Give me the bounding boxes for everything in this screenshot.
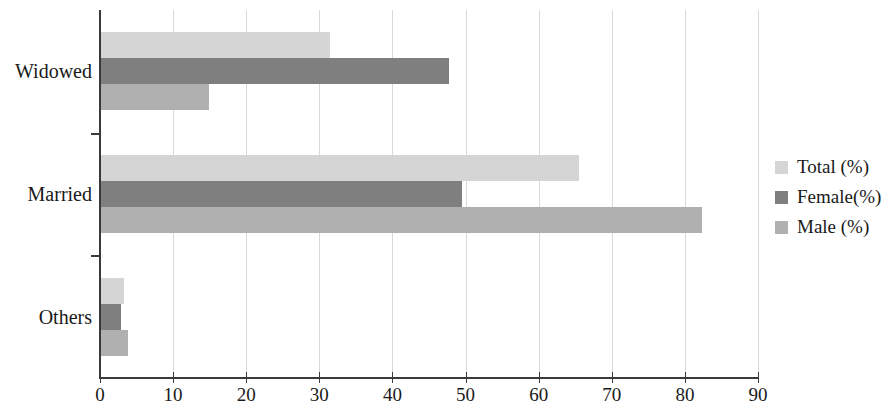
x-axis-tick-label: 0	[95, 384, 105, 406]
legend-swatch-icon	[775, 161, 788, 174]
x-axis-tick-label: 20	[237, 384, 256, 406]
bar	[100, 278, 124, 304]
x-axis-tick	[319, 372, 320, 383]
y-axis-line	[99, 10, 101, 378]
legend-label: Total (%)	[797, 156, 869, 178]
legend-item: Total (%)	[775, 152, 883, 182]
x-axis-tick-label: 80	[675, 384, 694, 406]
x-axis-tick	[392, 372, 393, 383]
category-label: Others	[0, 305, 92, 329]
legend-swatch-icon	[775, 191, 788, 204]
bars-layer	[100, 10, 758, 378]
x-axis-tick	[685, 372, 686, 383]
gridline	[758, 10, 759, 378]
bar	[100, 330, 128, 356]
x-axis-tick	[539, 372, 540, 383]
legend-swatch-icon	[775, 221, 788, 234]
x-axis-tick-label: 70	[602, 384, 621, 406]
bar	[100, 155, 579, 181]
y-axis-tick	[91, 133, 100, 135]
x-axis-tick-label: 90	[749, 384, 768, 406]
x-axis-tick	[246, 372, 247, 383]
legend-item: Female(%)	[775, 182, 883, 212]
legend-label: Female(%)	[797, 186, 881, 208]
legend-item: Male (%)	[775, 212, 883, 242]
x-axis-tick-label: 10	[164, 384, 183, 406]
category-label: Widowed	[0, 59, 92, 83]
bar	[100, 58, 449, 84]
category-label: Married	[0, 182, 92, 206]
bar	[100, 207, 702, 233]
x-axis-tick-label: 60	[529, 384, 548, 406]
y-axis-tick	[91, 255, 100, 257]
x-axis-tick-label: 40	[383, 384, 402, 406]
bar	[100, 304, 121, 330]
legend-label: Male (%)	[797, 216, 869, 238]
bar	[100, 32, 330, 58]
bar	[100, 181, 462, 207]
x-axis-line	[99, 377, 759, 379]
x-axis-tick	[612, 372, 613, 383]
x-axis-tick	[100, 372, 101, 383]
x-axis-tick-label: 50	[456, 384, 475, 406]
x-axis-tick	[466, 372, 467, 383]
x-axis-tick-label: 30	[310, 384, 329, 406]
bar	[100, 84, 209, 110]
x-axis-tick	[758, 372, 759, 383]
category-labels: WidowedMarriedOthers	[0, 0, 92, 414]
legend: Total (%)Female(%)Male (%)	[775, 152, 883, 242]
x-axis-tick	[173, 372, 174, 383]
bar-chart: 0102030405060708090 WidowedMarriedOthers…	[0, 0, 883, 414]
